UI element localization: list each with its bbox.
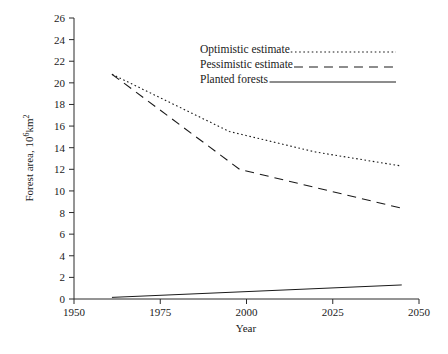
y-tick-label: 4 [60, 250, 66, 262]
x-axis-ticks: 19501975200020252050 [63, 299, 431, 318]
y-tick-label: 24 [54, 34, 66, 46]
x-tick-label: 1975 [149, 306, 172, 318]
forest-area-chart: 02468101214161820222426 1950197520002025… [0, 0, 448, 354]
series-line-pessimistic-estimate [112, 74, 402, 208]
y-axis-title: Forest area, 106km2 [22, 114, 35, 201]
x-tick-label: 2050 [408, 306, 431, 318]
legend-label-pessimistic-estimate: Pessimistic estimate [200, 58, 293, 70]
y-tick-label: 2 [60, 271, 66, 283]
legend-label-planted-forests: Planted forests [200, 73, 269, 85]
y-tick-label: 16 [54, 120, 66, 132]
y-tick-label: 22 [54, 55, 65, 67]
y-tick-label: 8 [60, 207, 66, 219]
data-series-group [112, 74, 402, 297]
y-tick-label: 14 [54, 142, 66, 154]
legend-label-optimistic-estimate: Optimistic estimate [200, 43, 290, 56]
y-tick-label: 18 [54, 98, 66, 110]
y-tick-label: 12 [54, 163, 65, 175]
y-tick-label: 10 [54, 185, 66, 197]
chart-canvas: 02468101214161820222426 1950197520002025… [0, 0, 448, 354]
chart-legend: Optimistic estimatePessimistic estimateP… [200, 43, 396, 85]
y-tick-label: 26 [54, 12, 66, 24]
series-line-planted-forests [112, 285, 402, 297]
x-tick-label: 2025 [322, 306, 345, 318]
y-tick-label: 20 [54, 77, 66, 89]
x-tick-label: 1950 [63, 306, 86, 318]
y-tick-label: 6 [60, 228, 66, 240]
y-tick-label: 0 [60, 293, 66, 305]
x-axis-title: Year [236, 322, 257, 334]
x-tick-label: 2000 [236, 306, 259, 318]
y-axis-ticks: 02468101214161820222426 [54, 12, 74, 305]
series-line-optimistic-estimate [112, 74, 402, 166]
